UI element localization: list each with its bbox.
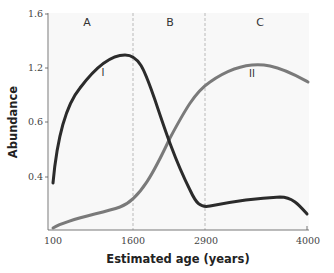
region-label-a: A (83, 16, 91, 29)
x-tick-100: 100 (44, 235, 62, 246)
curve-label-ii: II (249, 68, 255, 79)
y-tick-0.6: 0.6 (28, 116, 43, 127)
x-tick-2900: 2900 (194, 235, 218, 246)
curve-label-i: I (102, 67, 105, 78)
region-label-c: C (256, 16, 264, 29)
x-axis-title: Estimated age (years) (106, 252, 249, 266)
region-label-b: B (166, 16, 174, 29)
y-axis-title: Abundance (6, 86, 20, 159)
x-tick-1600: 1600 (121, 235, 145, 246)
y-tick-1.6: 1.6 (28, 8, 43, 19)
chart: 1.6 1.2 0.6 0.4 100 1600 2900 4000 A B C… (0, 0, 334, 273)
x-tick-4000: 4000 (296, 235, 320, 246)
y-tick-1.2: 1.2 (28, 62, 43, 73)
y-tick-0.4: 0.4 (28, 171, 43, 182)
